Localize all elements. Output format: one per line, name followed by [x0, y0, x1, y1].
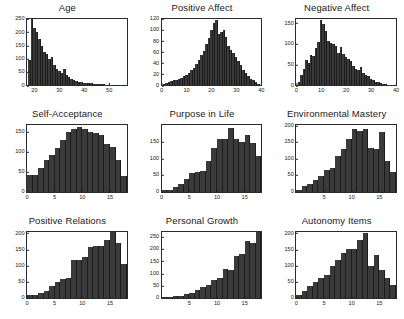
panel-positive-relations: Positive Relations050100150200051015 — [0, 213, 135, 319]
x-tick-label: 5 — [53, 298, 56, 307]
x-tick-label: 5 — [322, 192, 325, 201]
x-tick-label: 10 — [349, 298, 355, 307]
x-tick-label: 15 — [107, 298, 113, 307]
x-tick-label: 15 — [107, 192, 113, 201]
panel-self-acceptance: Self-Acceptance050100150051015 — [0, 106, 135, 212]
y-tick-label: 150 — [150, 139, 162, 145]
panel-title-self-acceptance: Self-Acceptance — [0, 108, 135, 119]
bars-environmental-mastery — [296, 125, 396, 191]
x-tick-label: 0 — [295, 298, 298, 307]
panel-positive-affect: Positive Affect020406080100120010203040 — [135, 0, 270, 106]
x-tick-label: 20 — [208, 85, 214, 94]
x-tick-label: 30 — [56, 85, 62, 94]
y-tick-label: 80 — [153, 38, 162, 44]
y-tick-label: 250 — [150, 234, 162, 240]
bars-self-acceptance — [27, 125, 127, 191]
y-tick-label: 150 — [284, 247, 296, 253]
y-tick-label: 100 — [150, 271, 162, 277]
x-tick-label: 5 — [53, 192, 56, 201]
axes-environmental-mastery: 05010015020051015 — [295, 124, 397, 192]
x-tick-label: 50 — [106, 85, 112, 94]
y-tick-label: 100 — [150, 27, 162, 33]
y-tick-label: 100 — [284, 156, 296, 162]
y-tick-label: 120 — [150, 16, 162, 22]
plot-area-purpose-in-life: 050100150051015 — [135, 122, 270, 212]
axes-positive-relations: 050100150200051015 — [26, 231, 128, 299]
panel-purpose-in-life: Purpose in Life050100150051015 — [135, 106, 270, 212]
y-tick-label: 50 — [288, 172, 297, 178]
y-tick-label: 0 — [156, 295, 162, 301]
plot-area-negative-affect: 050100150010203040 — [269, 16, 404, 106]
x-tick-label: 5 — [188, 192, 191, 201]
y-tick-label: 100 — [284, 41, 296, 47]
x-tick-label: 5 — [322, 298, 325, 307]
axes-self-acceptance: 050100150051015 — [26, 124, 128, 192]
plot-area-self-acceptance: 050100150051015 — [0, 122, 135, 212]
y-tick-label: 150 — [284, 20, 296, 26]
y-tick-label: 150 — [15, 43, 27, 49]
y-tick-label: 100 — [15, 263, 27, 269]
x-tick-label: 10 — [214, 192, 220, 201]
bar — [256, 232, 262, 298]
plot-area-autonomy-items: 050100150200051015 — [269, 229, 404, 319]
x-tick-label: 20 — [31, 85, 37, 94]
panel-age: Age05010015020025020304050 — [0, 0, 135, 106]
y-tick-label: 200 — [284, 230, 296, 236]
y-tick-label: 50 — [18, 169, 27, 175]
panel-negative-affect: Negative Affect050100150010203040 — [269, 0, 404, 106]
axes-purpose-in-life: 050100150051015 — [161, 124, 263, 192]
bars-autonomy-items — [296, 232, 396, 298]
y-tick-label: 200 — [15, 29, 27, 35]
panel-title-age: Age — [0, 2, 135, 13]
y-tick-label: 150 — [15, 247, 27, 253]
x-tick-label: 10 — [349, 192, 355, 201]
x-tick-label: 0 — [295, 85, 298, 94]
bar — [121, 264, 127, 298]
x-tick-label: 10 — [214, 298, 220, 307]
panel-title-autonomy-items: Autonomy Items — [269, 215, 404, 226]
x-tick-label: 0 — [25, 192, 28, 201]
y-tick-label: 150 — [284, 139, 296, 145]
y-tick-label: 50 — [18, 279, 27, 285]
y-tick-label: 20 — [153, 71, 162, 77]
x-tick-label: 40 — [258, 85, 264, 94]
x-tick-label: 15 — [242, 192, 248, 201]
x-tick-label: 40 — [81, 85, 87, 94]
plot-area-environmental-mastery: 05010015020051015 — [269, 122, 404, 212]
y-tick-label: 60 — [153, 49, 162, 55]
histogram-figure: Age05010015020025020304050Positive Affec… — [0, 0, 404, 319]
x-tick-label: 0 — [160, 85, 163, 94]
plot-area-age: 05010015020025020304050 — [0, 16, 135, 106]
x-tick-label: 5 — [188, 298, 191, 307]
x-tick-label: 10 — [183, 85, 189, 94]
y-tick-label: 100 — [150, 156, 162, 162]
y-tick-label: 50 — [288, 62, 297, 68]
bar — [390, 285, 396, 298]
x-tick-label: 0 — [160, 192, 163, 201]
axes-autonomy-items: 050100150200051015 — [295, 231, 397, 299]
x-tick-label: 0 — [25, 298, 28, 307]
axes-negative-affect: 050100150010203040 — [295, 18, 397, 86]
y-tick-label: 100 — [15, 149, 27, 155]
y-tick-label: 100 — [284, 263, 296, 269]
y-tick-label: 50 — [153, 172, 162, 178]
x-tick-label: 10 — [318, 85, 324, 94]
x-tick-label: 10 — [79, 298, 85, 307]
y-tick-label: 200 — [15, 230, 27, 236]
x-tick-label: 20 — [343, 85, 349, 94]
x-tick-label: 40 — [393, 85, 399, 94]
bars-purpose-in-life — [162, 125, 262, 191]
bar — [121, 176, 127, 192]
x-tick-label: 30 — [233, 85, 239, 94]
bar — [256, 156, 262, 192]
x-tick-label: 15 — [376, 298, 382, 307]
panel-personal-growth: Personal Growth05010015020025051015 — [135, 213, 270, 319]
bars-age — [27, 19, 127, 85]
y-tick-label: 0 — [291, 189, 297, 195]
bar — [390, 172, 396, 191]
plot-area-positive-affect: 020406080100120010203040 — [135, 16, 270, 106]
plot-area-positive-relations: 050100150200051015 — [0, 229, 135, 319]
y-tick-label: 40 — [153, 60, 162, 66]
bars-positive-relations — [27, 232, 127, 298]
y-tick-label: 100 — [15, 56, 27, 62]
